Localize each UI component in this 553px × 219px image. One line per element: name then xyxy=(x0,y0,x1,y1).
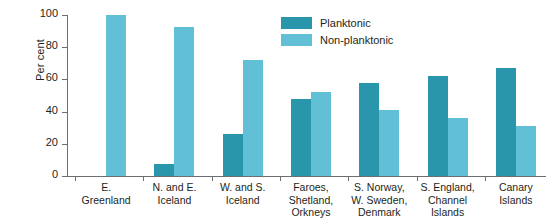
y-axis-tick-label: 100 xyxy=(40,7,58,19)
bar-planktonic xyxy=(359,83,379,176)
y-axis-tick: 20 xyxy=(62,144,68,145)
bar-group xyxy=(86,15,126,176)
bar-group xyxy=(496,15,536,176)
y-axis-tick: 100 xyxy=(62,15,68,16)
y-axis-line xyxy=(67,15,68,177)
bar-planktonic xyxy=(223,134,243,176)
x-axis-line xyxy=(67,176,546,177)
legend-label: Planktonic xyxy=(320,17,371,29)
bar-group xyxy=(154,15,194,176)
bar-planktonic xyxy=(428,76,448,176)
bar-planktonic xyxy=(154,164,174,176)
bar-non-planktonic xyxy=(243,60,263,176)
y-axis-tick: 40 xyxy=(62,112,68,113)
legend-swatch-icon xyxy=(281,17,312,29)
y-axis-tick-label: 80 xyxy=(46,39,58,51)
bar-chart: Per cent 020406080100 E. GreenlandN. and… xyxy=(0,0,553,219)
bar-group xyxy=(428,15,468,176)
y-axis-tick-label: 60 xyxy=(46,71,58,83)
x-axis-category-label: N. and E. Iceland xyxy=(140,181,208,206)
x-axis-category-label: W. and S. Iceland xyxy=(209,181,277,206)
chart-legend: Planktonic Non-planktonic xyxy=(281,17,393,46)
legend-label: Non-planktonic xyxy=(320,34,393,46)
bar-planktonic xyxy=(496,68,516,176)
x-axis-category-label: E. Greenland xyxy=(72,181,140,206)
legend-item-planktonic: Planktonic xyxy=(281,17,393,29)
bar-non-planktonic xyxy=(106,15,126,176)
x-axis-category-label: S. England, Channel Islands xyxy=(413,181,481,219)
x-axis-category-label: Faroes, Shetland, Orkneys xyxy=(277,181,345,219)
y-axis-tick-label: 40 xyxy=(46,104,58,116)
y-axis-tick: 80 xyxy=(62,47,68,48)
bar-group xyxy=(223,15,263,176)
y-axis-label: Per cent xyxy=(34,20,50,100)
legend-swatch-icon xyxy=(281,34,312,46)
bar-non-planktonic xyxy=(311,92,331,176)
y-axis-tick: 60 xyxy=(62,79,68,80)
x-axis-category-label: Canary Islands xyxy=(482,181,550,206)
bar-non-planktonic xyxy=(174,27,194,176)
bar-non-planktonic xyxy=(516,126,536,176)
bar-non-planktonic xyxy=(448,118,468,176)
bar-planktonic xyxy=(291,99,311,176)
y-axis-tick-label: 0 xyxy=(52,168,58,180)
y-axis-tick: 0 xyxy=(62,176,68,177)
bar-non-planktonic xyxy=(379,110,399,176)
legend-item-non-planktonic: Non-planktonic xyxy=(281,34,393,46)
y-axis-tick-label: 20 xyxy=(46,136,58,148)
x-axis-category-label: S. Norway, W. Sweden, Denmark xyxy=(345,181,413,219)
